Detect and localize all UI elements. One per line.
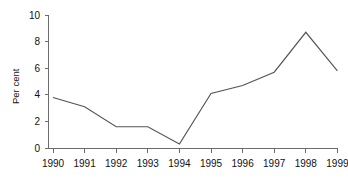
x-tick-label: 1994 [168,158,191,169]
x-tick-label: 1991 [73,158,96,169]
y-tick-label: 8 [34,36,40,47]
x-tick-label: 1997 [263,158,286,169]
x-tick-label: 1992 [105,158,128,169]
y-tick-label: 10 [29,10,41,21]
x-axis-tick-labels: 1990 1991 1992 1993 1994 1995 1996 1997 … [42,158,348,169]
y-tick-label: 2 [34,116,40,127]
y-tick-label: 4 [34,89,40,100]
y-tick-label: 6 [34,63,40,74]
x-tick-label: 1998 [295,158,318,169]
y-tick-label: 0 [34,143,40,154]
chart-canvas: Per cent 10 8 6 4 2 0 [0,0,348,179]
line-chart: Per cent 10 8 6 4 2 0 [0,0,348,179]
x-axis-tick-marks [53,149,337,154]
x-tick-label: 1995 [200,158,223,169]
x-tick-label: 1990 [42,158,65,169]
y-axis-tick-marks [45,15,49,148]
axis-spines [49,15,339,148]
x-tick-label: 1993 [137,158,160,169]
y-axis-title: Per cent [10,68,21,104]
data-line-series-0 [53,32,337,144]
x-tick-label: 1996 [231,158,254,169]
x-tick-label: 1999 [326,158,348,169]
y-axis-tick-labels: 10 8 6 4 2 0 [29,10,41,154]
